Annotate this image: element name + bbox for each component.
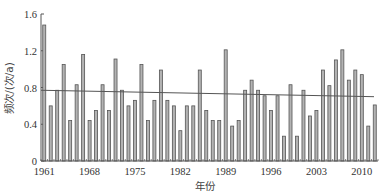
bar-2012 (373, 105, 376, 161)
y-tick-label: 1.6 (24, 9, 37, 20)
bar-1989 (224, 50, 227, 161)
bar-1970 (101, 85, 104, 161)
bar-1978 (153, 100, 156, 161)
bar-1994 (257, 90, 260, 161)
bar-1974 (127, 106, 130, 161)
bar-2003 (315, 110, 318, 161)
bar-1967 (82, 54, 85, 161)
bar-1991 (237, 121, 240, 161)
bar-1981 (172, 106, 175, 161)
bar-1973 (121, 90, 124, 161)
bar-1986 (205, 110, 208, 161)
bar-1962 (49, 106, 52, 161)
bar-1961 (43, 25, 46, 161)
bar-1983 (185, 106, 188, 161)
bar-1975 (133, 100, 136, 161)
bar-1990 (231, 126, 234, 161)
bar-2001 (302, 90, 305, 161)
x-tick-label: 2010 (351, 166, 372, 177)
bar-1980 (166, 100, 169, 161)
x-axis-title: 年份 (195, 180, 216, 192)
y-axis-title: 频次/(次/a) (3, 62, 15, 114)
bar-1965 (69, 121, 72, 161)
bar-2005 (328, 86, 331, 161)
bar-1987 (211, 121, 214, 161)
bar-1985 (198, 70, 201, 161)
bar-2004 (321, 70, 324, 161)
bar-2009 (354, 70, 357, 161)
bar-1993 (250, 80, 253, 161)
bar-1972 (114, 59, 117, 161)
y-tick-label: 0.4 (24, 119, 38, 130)
bar-1996 (270, 110, 273, 161)
y-tick-label: 1.2 (24, 46, 37, 57)
bar-1969 (95, 110, 98, 161)
bar-1979 (159, 70, 162, 161)
bar-1998 (283, 136, 286, 161)
bar-1971 (108, 110, 111, 161)
bar-1999 (289, 85, 292, 161)
bar-1995 (263, 96, 266, 161)
x-tick-label: 1968 (79, 166, 100, 177)
bar-1977 (146, 121, 149, 161)
bar-2002 (308, 116, 311, 161)
bar-1963 (56, 90, 59, 161)
bar-1968 (88, 121, 91, 161)
x-tick-label: 1961 (34, 166, 55, 177)
x-tick-label: 1989 (215, 166, 236, 177)
x-tick-label: 1975 (124, 166, 145, 177)
bar-2008 (347, 80, 350, 161)
bar-1982 (179, 131, 182, 161)
bar-1984 (192, 106, 195, 161)
bar-2010 (360, 75, 363, 161)
x-axis-tick-labels: 19611968197519821989199620032010 (34, 166, 373, 177)
bar-1966 (75, 85, 78, 161)
bar-2011 (367, 126, 370, 161)
bar-1997 (276, 96, 279, 161)
bar-chart: 00.40.81.21.6 19611968197519821989199620… (0, 0, 382, 196)
y-tick-label: 0.8 (24, 83, 37, 94)
bar-2006 (334, 60, 337, 161)
bar-1988 (218, 121, 221, 161)
x-tick-label: 1982 (170, 166, 191, 177)
bar-2007 (341, 50, 344, 161)
x-tick-label: 1996 (261, 166, 282, 177)
bar-1976 (140, 65, 143, 161)
bar-1964 (62, 65, 65, 161)
x-tick-label: 2003 (306, 166, 327, 177)
bar-2000 (295, 136, 298, 161)
bar-1992 (244, 90, 247, 161)
